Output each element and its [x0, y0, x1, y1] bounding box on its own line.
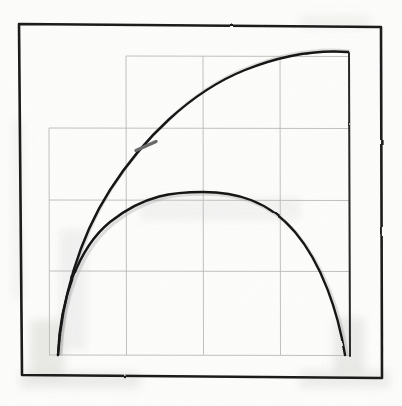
sketch-page: [0, 0, 402, 406]
grid-hline-bottom: [49, 355, 349, 356]
grid-hline-top: [126, 56, 349, 57]
grid-hline-upper: [49, 128, 349, 129]
grid-box-right-edge-inked: [349, 53, 350, 356]
sketch-canvas: [0, 0, 402, 406]
grid-hline-middle: [49, 200, 349, 201]
grid-hline-lower: [49, 271, 349, 272]
smudge-curve-shadow-dome: [140, 198, 300, 220]
grid-vline-mid-left: [126, 56, 127, 355]
grid-vline-left: [49, 128, 50, 355]
grid-vline-mid-right: [280, 56, 281, 355]
